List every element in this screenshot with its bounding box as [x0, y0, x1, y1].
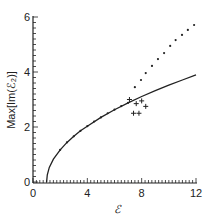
x-tick-label: 0 [30, 187, 36, 199]
data-dot [163, 52, 165, 54]
data-dot [93, 120, 95, 122]
data-dot [120, 105, 122, 107]
data-dot [187, 29, 189, 31]
x-tick-label: 12 [190, 187, 202, 199]
data-dot [86, 125, 88, 127]
data-dot [134, 86, 136, 88]
data-dot [193, 24, 195, 26]
x-tick-label: 4 [84, 187, 90, 199]
data-dot [145, 72, 147, 74]
y-tick-label: 0 [24, 176, 30, 188]
data-dot [113, 109, 115, 111]
data-dot [175, 39, 177, 41]
data-dot [181, 34, 183, 36]
data-dot [157, 58, 159, 60]
data-dot [169, 45, 171, 47]
y-tick-label: 6 [24, 11, 30, 23]
chart: 048120246 ℰ Max[Im(ℰ₂)] [0, 0, 210, 219]
data-dot [59, 149, 61, 151]
x-tick-label: 8 [139, 187, 145, 199]
y-axis-label: Max[Im(ℰ₂)] [5, 71, 17, 129]
cross-marker [134, 101, 139, 106]
data-dot [140, 79, 142, 81]
cross-marker [136, 111, 141, 116]
y-tick-label: 2 [24, 121, 30, 133]
minor-ticks [33, 17, 196, 183]
data-dot [73, 135, 75, 137]
data-dot [151, 65, 153, 67]
cross-marker [143, 104, 148, 109]
data-dot [127, 102, 129, 104]
x-axis-label: ℰ [114, 203, 122, 215]
y-tick-label: 4 [24, 66, 30, 78]
solid-curve [47, 75, 196, 182]
axes [33, 16, 197, 183]
cross-series [127, 97, 148, 116]
cross-marker [131, 111, 136, 116]
cross-marker [139, 98, 144, 103]
data-dot [66, 141, 68, 143]
data-dot [100, 116, 102, 118]
data-dot [107, 112, 109, 114]
data-dot [79, 130, 81, 132]
